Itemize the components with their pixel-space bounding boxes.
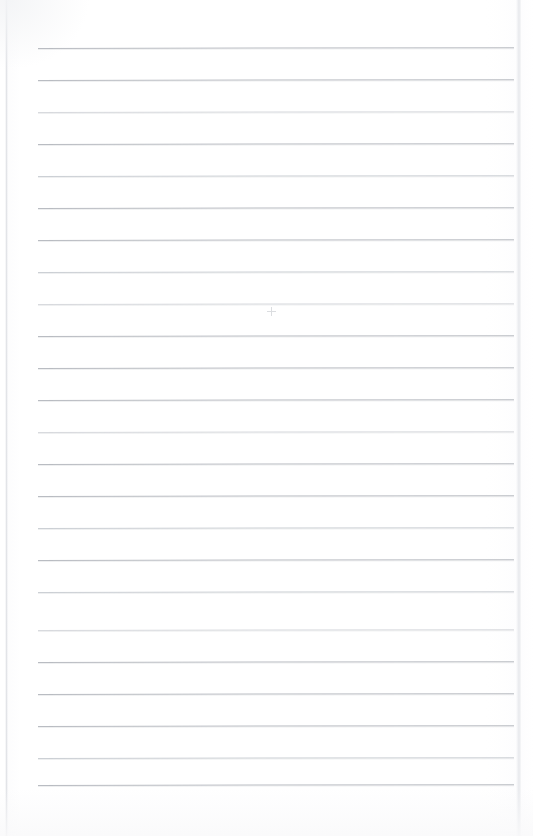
rule-line <box>38 207 514 209</box>
rule-line <box>38 661 514 663</box>
rule-line <box>38 271 514 273</box>
rule-line <box>38 591 514 593</box>
rule-line <box>38 79 514 81</box>
rule-line <box>38 143 514 145</box>
rule-line <box>38 47 514 49</box>
scanned-page: Blank lined notepad page <box>0 0 533 836</box>
rule-line <box>38 757 514 759</box>
rule-line <box>38 239 514 241</box>
rule-line <box>38 527 514 529</box>
rule-line <box>38 463 514 465</box>
pencil-dot-mark <box>267 307 276 316</box>
rule-line <box>38 693 514 695</box>
rule-line <box>38 399 514 401</box>
rule-line <box>38 111 514 113</box>
ruled-lines-area <box>0 0 533 836</box>
rule-line <box>38 303 514 305</box>
rule-line <box>38 725 514 727</box>
rule-line <box>38 175 514 177</box>
rule-line <box>38 431 514 433</box>
rule-line <box>38 335 514 337</box>
rule-line <box>38 784 514 786</box>
rule-line <box>38 495 514 497</box>
rule-line <box>38 629 514 631</box>
rule-line <box>38 367 514 369</box>
rule-line <box>38 559 514 561</box>
